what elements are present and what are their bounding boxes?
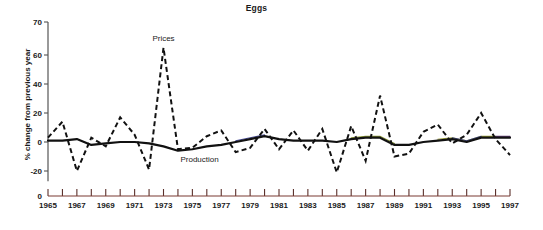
annotation-production: Production xyxy=(180,155,218,164)
x-tick-label: 1971 xyxy=(126,201,144,210)
x-tick-label: 1969 xyxy=(97,201,115,210)
x-tick-label: 1983 xyxy=(299,201,317,210)
y-tick-label: 40 xyxy=(33,80,42,89)
x-tick-label: 1975 xyxy=(183,201,201,210)
y-axis-baseline-zero-label: 0 xyxy=(38,192,43,201)
x-axis-ticks: 1965196719691971197319751977197919811983… xyxy=(39,189,519,210)
x-tick-label: 1997 xyxy=(501,201,519,210)
y-axis-label: % change from previous year xyxy=(23,25,32,185)
y-tick-label: 60 xyxy=(33,51,42,60)
x-tick-label: 1995 xyxy=(472,201,490,210)
x-tick-label: 1977 xyxy=(212,201,230,210)
y-tick-label: 70 xyxy=(33,18,42,27)
chart-figure: Eggs % change from previous year -200204… xyxy=(0,0,543,230)
y-tick-label: -20 xyxy=(30,167,42,176)
x-tick-label: 1965 xyxy=(39,201,57,210)
x-tick-label: 1987 xyxy=(357,201,375,210)
x-tick-label: 1993 xyxy=(443,201,461,210)
y-tick-label: 0 xyxy=(38,138,43,147)
chart-plot-area: -200204060700 19651967196919711973197519… xyxy=(0,0,543,230)
series-annotations: PricesProduction xyxy=(152,34,218,165)
x-tick-label: 1967 xyxy=(68,201,86,210)
x-tick-label: 1979 xyxy=(241,201,259,210)
x-tick-label: 1991 xyxy=(414,201,432,210)
prices-series-line xyxy=(48,48,510,173)
y-tick-label: 20 xyxy=(33,109,42,118)
annotation-prices: Prices xyxy=(152,34,174,43)
x-tick-label: 1989 xyxy=(386,201,404,210)
x-tick-label: 1985 xyxy=(328,201,346,210)
chart-title: Eggs xyxy=(0,3,528,13)
x-tick-label: 1981 xyxy=(270,201,288,210)
y-axis-ticks: -200204060700 xyxy=(30,18,48,201)
x-tick-label: 1973 xyxy=(155,201,173,210)
